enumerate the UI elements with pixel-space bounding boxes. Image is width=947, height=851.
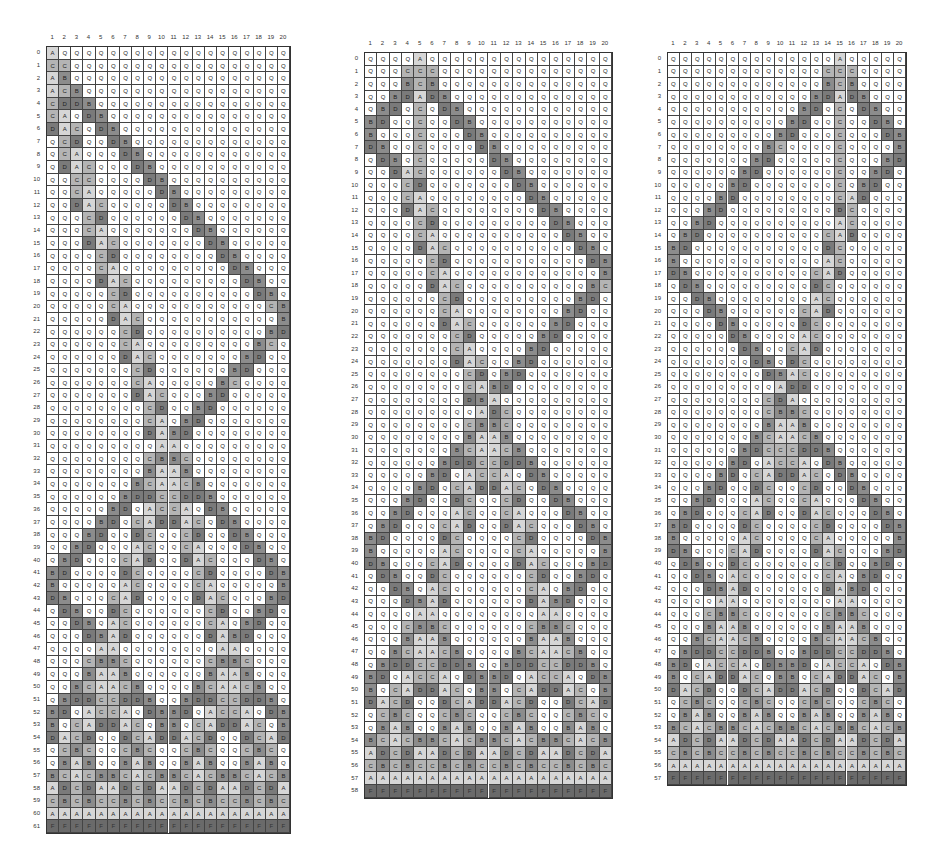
cell-state-b: B	[575, 507, 587, 520]
cell-state-a: A	[575, 734, 587, 747]
cell-state-c: C	[668, 747, 680, 760]
cell-state-q: Q	[799, 533, 811, 546]
cell-state-q: Q	[427, 116, 439, 129]
cell-state-d: D	[799, 318, 811, 331]
cell-state-q: Q	[390, 444, 402, 457]
cell-state-q: Q	[526, 141, 538, 154]
cell-state-q: Q	[254, 402, 266, 415]
time-step-label: 28	[26, 404, 40, 410]
cell-state-q: Q	[108, 542, 120, 555]
cell-state-q: Q	[847, 305, 859, 318]
cell-state-q: Q	[716, 457, 728, 470]
cell-state-q: Q	[716, 293, 728, 306]
cell-state-b: B	[83, 98, 95, 111]
cell-state-q: Q	[278, 225, 290, 238]
cell-state-d: D	[156, 186, 168, 199]
cell-state-c: C	[704, 634, 716, 647]
cell-state-b: B	[704, 204, 716, 217]
cell-state-q: Q	[775, 78, 787, 91]
cell-state-b: B	[241, 757, 253, 770]
cell-state-c: C	[464, 318, 476, 331]
cell-state-a: A	[526, 772, 538, 785]
cell-state-q: Q	[71, 643, 83, 656]
cell-state-q: Q	[870, 331, 882, 344]
cell-state-d: D	[835, 671, 847, 684]
cell-state-q: Q	[266, 389, 278, 402]
cell-state-d: D	[501, 167, 513, 180]
cell-state-q: Q	[47, 250, 59, 263]
cell-state-a: A	[427, 634, 439, 647]
cell-state-q: Q	[229, 453, 241, 466]
cell-state-q: Q	[489, 570, 501, 583]
time-step-label: 36	[647, 510, 661, 516]
column-label: 4	[401, 40, 413, 46]
cell-state-q: Q	[451, 242, 463, 255]
cell-state-c: C	[414, 103, 426, 116]
cell-state-q: Q	[847, 432, 859, 445]
time-step-label: 37	[647, 522, 661, 528]
cell-state-a: A	[550, 747, 562, 760]
time-step-label: 30	[26, 430, 40, 436]
cell-state-q: Q	[668, 419, 680, 432]
cell-state-c: C	[266, 301, 278, 314]
cell-state-q: Q	[377, 91, 389, 104]
cell-state-c: C	[799, 406, 811, 419]
cell-state-a: A	[59, 110, 71, 123]
time-step-label: 33	[26, 468, 40, 474]
cell-state-q: Q	[120, 110, 132, 123]
cell-state-b: B	[390, 507, 402, 520]
cell-state-q: Q	[739, 469, 751, 482]
cell-state-q: Q	[193, 148, 205, 161]
column-label: 11	[488, 40, 500, 46]
column-label: 14	[525, 40, 537, 46]
cell-state-c: C	[278, 795, 290, 808]
cell-state-q: Q	[787, 507, 799, 520]
cell-state-q: Q	[501, 179, 513, 192]
cell-state-b: B	[704, 747, 716, 760]
cell-state-q: Q	[266, 351, 278, 364]
cell-state-q: Q	[217, 427, 229, 440]
cell-state-q: Q	[96, 415, 108, 428]
cell-state-q: Q	[217, 123, 229, 136]
time-step-label: 13	[344, 219, 358, 225]
cell-state-q: Q	[241, 503, 253, 516]
cell-state-q: Q	[241, 85, 253, 98]
cell-state-q: Q	[550, 66, 562, 79]
cell-state-d: D	[71, 98, 83, 111]
cell-state-q: Q	[476, 280, 488, 293]
cell-state-a: A	[229, 643, 241, 656]
cell-state-q: Q	[668, 116, 680, 129]
cell-state-d: D	[823, 646, 835, 659]
cell-state-q: Q	[587, 331, 599, 344]
cell-state-q: Q	[47, 491, 59, 504]
cell-state-q: Q	[241, 60, 253, 73]
cell-state-q: Q	[775, 242, 787, 255]
time-step-label: 52	[26, 709, 40, 715]
cell-state-q: Q	[156, 161, 168, 174]
cell-state-q: Q	[278, 161, 290, 174]
cell-state-a: A	[439, 558, 451, 571]
cell-state-q: Q	[377, 583, 389, 596]
cell-state-q: Q	[205, 465, 217, 478]
cell-state-q: Q	[120, 98, 132, 111]
cell-state-q: Q	[787, 66, 799, 79]
cell-state-q: Q	[882, 406, 894, 419]
cell-state-q: Q	[668, 305, 680, 318]
cell-state-q: Q	[704, 343, 716, 356]
cell-state-q: Q	[728, 419, 740, 432]
cell-state-q: Q	[464, 141, 476, 154]
cell-state-q: Q	[156, 148, 168, 161]
cell-state-q: Q	[847, 318, 859, 331]
cell-state-q: Q	[193, 364, 205, 377]
cell-state-f: F	[205, 820, 217, 833]
cell-state-b: B	[847, 608, 859, 621]
cell-state-c: C	[96, 250, 108, 263]
cell-state-q: Q	[278, 402, 290, 415]
cell-state-q: Q	[870, 659, 882, 672]
cell-state-q: Q	[439, 116, 451, 129]
cell-state-a: A	[132, 542, 144, 555]
cell-state-a: A	[205, 592, 217, 605]
cell-state-a: A	[787, 760, 799, 773]
cell-state-a: A	[427, 230, 439, 243]
cell-state-q: Q	[96, 389, 108, 402]
